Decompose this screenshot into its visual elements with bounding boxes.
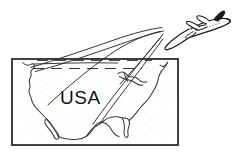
airplane-main-wing [165,29,196,50]
usa-airplane-illustration: USA [0,0,234,161]
airplane-stabilizer-upper [197,16,210,24]
illustration-canvas: USA [0,0,234,161]
usa-map-label: USA [60,87,101,108]
jet-airplane [165,11,230,50]
